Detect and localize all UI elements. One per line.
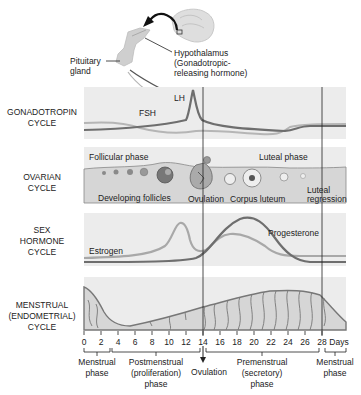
phase-label-line: phase <box>316 368 353 379</box>
corpus-luteum-label: Corpus luteum <box>230 194 285 204</box>
phase-label-line: (proliferation) <box>129 368 183 379</box>
tick-label: 14 <box>198 337 207 347</box>
phase-label-line: (secretory) <box>237 368 288 379</box>
ovulation-arrow-icon <box>200 346 206 363</box>
tick-label: 18 <box>232 337 241 347</box>
premenstrual-phase-label: Premenstrual (secretory) phase <box>237 357 288 390</box>
phase-label-line: Postmenstrual <box>129 357 183 368</box>
luteal-regression-label-line2: regression <box>307 194 347 204</box>
developing-follicles-label: Developing follicles <box>98 193 171 203</box>
tick-label: 10 <box>164 337 173 347</box>
estrogen-label: Estrogen <box>89 246 123 256</box>
tick-label: 0 <box>82 337 87 347</box>
progesterone-label: Progesterone <box>268 228 319 238</box>
tick-label: 4 <box>116 337 121 347</box>
axis-unit-label: Days <box>329 337 348 347</box>
tick-label: 6 <box>133 337 138 347</box>
menstrual-phase-label-end: Menstrual phase <box>316 357 353 379</box>
phase-brackets <box>84 348 346 356</box>
phase-label-line: phase <box>237 379 288 390</box>
phase-label-line: Premenstrual <box>237 357 288 368</box>
tick-label: 8 <box>150 337 155 347</box>
phase-label-line: Ovulation <box>191 367 227 378</box>
phase-label-line: Menstrual <box>78 357 115 368</box>
tick-label: 20 <box>249 337 258 347</box>
menstrual-phase-label-start: Menstrual phase <box>78 357 115 379</box>
lh-label: LH <box>174 93 185 103</box>
tick-label: 22 <box>266 337 275 347</box>
cycle-curves: LH FSH Follicular phase Luteal phase Dev… <box>0 0 361 395</box>
tick-label: 12 <box>181 337 190 347</box>
endometrium-lining <box>84 287 346 330</box>
ovulation-follicle-icon <box>190 157 212 189</box>
day-axis-ticks <box>84 331 322 335</box>
ovulation-label: Ovulation <box>188 194 224 204</box>
fsh-label: FSH <box>139 108 156 118</box>
ovulation-phase-label: Ovulation <box>191 367 227 378</box>
phase-label-line: Menstrual <box>316 357 353 368</box>
tick-label: 24 <box>283 337 292 347</box>
tick-label: 16 <box>215 337 224 347</box>
luteal-phase-label: Luteal phase <box>259 152 308 162</box>
tick-label: 2 <box>99 337 104 347</box>
phase-label-line: phase <box>78 368 115 379</box>
postmenstrual-phase-label: Postmenstrual (proliferation) phase <box>129 357 183 390</box>
phase-label-line: phase <box>129 379 183 390</box>
tick-label: 28 <box>317 337 326 347</box>
follicular-phase-label: Follicular phase <box>89 152 149 162</box>
tick-label: 26 <box>300 337 309 347</box>
